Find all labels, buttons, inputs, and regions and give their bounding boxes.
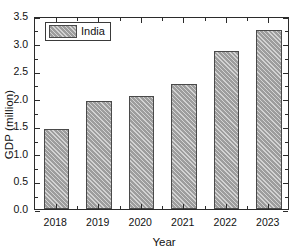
x-tick-label-2019: 2019 [86, 216, 109, 228]
x-tick-label-2022: 2022 [214, 216, 237, 228]
x-tick-top-2023 [268, 18, 269, 23]
bar-2020 [129, 96, 155, 209]
y-tick-label-2.0: 2.0 [13, 93, 28, 105]
x-minor-tick-bottom-4 [205, 206, 206, 209]
plot-inner [35, 18, 288, 209]
x-minor-tick-top-2 [120, 18, 121, 21]
y-tick-left-0.5 [35, 183, 40, 184]
y-minor-tick-right-2.75 [285, 59, 288, 60]
x-tick-top-2020 [141, 18, 142, 23]
x-tick-top-2021 [183, 18, 184, 23]
x-tick-top-2022 [226, 18, 227, 23]
x-tick-label-2023: 2023 [256, 216, 279, 228]
x-minor-tick-top-3 [162, 18, 163, 21]
x-tick-bottom-2018 [56, 204, 57, 209]
x-minor-tick-bottom-5 [247, 206, 248, 209]
bar-2022 [214, 51, 240, 209]
x-minor-tick-top-4 [205, 18, 206, 21]
y-minor-tick-right-1.25 [285, 142, 288, 143]
y-minor-tick-left-0.25 [35, 197, 38, 198]
y-tick-right-3.5 [283, 18, 288, 19]
y-tick-label-0.0: 0.0 [13, 203, 28, 215]
x-minor-tick-bottom-1 [77, 206, 78, 209]
legend: India [45, 22, 111, 41]
y-tick-right-3.0 [283, 45, 288, 46]
y-tick-right-2.5 [283, 73, 288, 74]
bar-2021 [171, 84, 197, 209]
chart-figure: GDP (million) India 0.00.51.01.52.02.53.… [0, 0, 300, 249]
x-tick-bottom-2019 [98, 204, 99, 209]
y-tick-right-2.0 [283, 100, 288, 101]
y-tick-left-0.0 [35, 211, 40, 212]
x-tick-bottom-2022 [226, 204, 227, 209]
x-tick-label-2018: 2018 [44, 216, 67, 228]
x-minor-tick-bottom-2 [120, 206, 121, 209]
y-minor-tick-left-3.25 [35, 31, 38, 32]
legend-label-india: India [81, 26, 105, 37]
y-tick-left-3.0 [35, 45, 40, 46]
y-tick-label-2.5: 2.5 [13, 65, 28, 77]
y-tick-left-1.5 [35, 128, 40, 129]
bar-2023 [256, 30, 282, 209]
y-tick-label-1.5: 1.5 [13, 120, 28, 132]
x-tick-bottom-2021 [183, 204, 184, 209]
y-minor-tick-right-0.75 [285, 169, 288, 170]
y-tick-right-0.0 [283, 211, 288, 212]
x-tick-label-2021: 2021 [171, 216, 194, 228]
y-minor-tick-right-2.25 [285, 86, 288, 87]
y-minor-tick-left-1.25 [35, 142, 38, 143]
x-minor-tick-top-5 [247, 18, 248, 21]
bar-2019 [86, 101, 112, 209]
x-axis-title: Year [34, 236, 294, 248]
y-minor-tick-left-0.75 [35, 169, 38, 170]
y-tick-left-2.0 [35, 100, 40, 101]
legend-swatch-india [49, 25, 77, 38]
y-tick-right-0.5 [283, 183, 288, 184]
y-tick-left-2.5 [35, 73, 40, 74]
x-minor-tick-bottom-3 [162, 206, 163, 209]
y-tick-label-1.0: 1.0 [13, 148, 28, 160]
x-minor-tick-top-1 [77, 18, 78, 21]
y-tick-right-1.5 [283, 128, 288, 129]
y-tick-label-0.5: 0.5 [13, 175, 28, 187]
y-tick-right-1.0 [283, 155, 288, 156]
y-minor-tick-right-1.75 [285, 114, 288, 115]
x-tick-bottom-2020 [141, 204, 142, 209]
y-tick-label-3.5: 3.5 [13, 10, 28, 22]
x-tick-bottom-2023 [268, 204, 269, 209]
y-tick-label-3.0: 3.0 [13, 38, 28, 50]
y-minor-tick-left-1.75 [35, 114, 38, 115]
y-minor-tick-left-2.25 [35, 86, 38, 87]
bar-2018 [44, 129, 70, 209]
y-tick-left-1.0 [35, 155, 40, 156]
y-minor-tick-right-3.25 [285, 31, 288, 32]
y-tick-left-3.5 [35, 18, 40, 19]
y-minor-tick-right-0.25 [285, 197, 288, 198]
plot-area: India [34, 17, 289, 210]
x-tick-label-2020: 2020 [129, 216, 152, 228]
y-minor-tick-left-2.75 [35, 59, 38, 60]
